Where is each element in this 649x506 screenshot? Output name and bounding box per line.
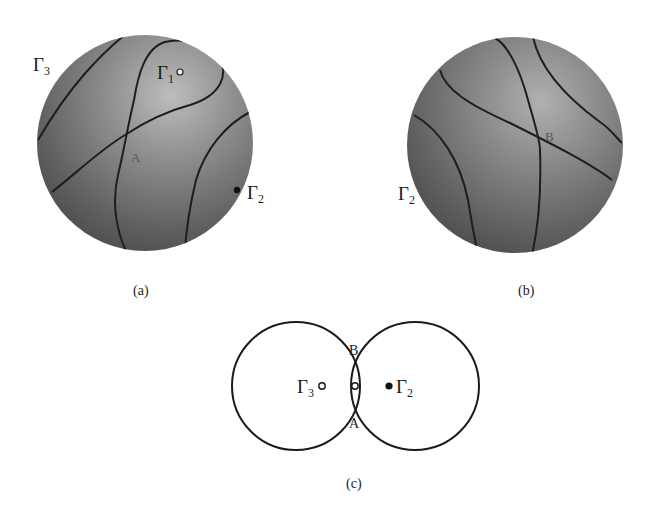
label-gamma2-b: Γ2 xyxy=(398,184,415,206)
label-gamma2-c: Γ2 xyxy=(396,377,413,399)
circle-left xyxy=(232,322,360,450)
sphere-a xyxy=(37,32,253,255)
label-gamma3-c: Γ3 xyxy=(297,377,314,399)
caption-b: (b) xyxy=(518,284,534,298)
label-point-a: A xyxy=(131,151,140,164)
label-point-b-c: B xyxy=(349,344,358,358)
label-gamma2-a: Γ2 xyxy=(247,183,264,205)
gamma2-filled-dot xyxy=(385,382,392,389)
caption-c: (c) xyxy=(346,477,362,491)
sphere-b-body xyxy=(407,37,623,253)
gamma2-filled-dot-a xyxy=(234,187,240,193)
figure-canvas xyxy=(0,0,649,506)
gamma1-open-dot xyxy=(177,69,183,75)
caption-a: (a) xyxy=(133,284,149,298)
sphere-a-body xyxy=(37,35,253,251)
circle-right xyxy=(351,322,479,450)
label-gamma3-a: Γ3 xyxy=(33,55,50,77)
gamma3-open-dot xyxy=(319,383,325,389)
label-gamma1-a: Γ1 xyxy=(157,63,174,85)
label-point-b: B xyxy=(545,130,554,143)
sphere-b xyxy=(407,37,623,255)
center-open-dot xyxy=(352,383,358,389)
label-point-a-c: A xyxy=(349,417,359,431)
